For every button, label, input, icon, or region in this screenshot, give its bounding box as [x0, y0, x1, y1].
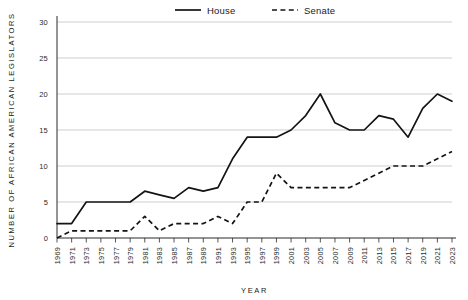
chart-container: 051015202530 196919711973197519771979198… — [0, 0, 468, 300]
y-tick-label: 15 — [39, 126, 48, 135]
y-tick-label: 20 — [39, 90, 48, 99]
y-tick-label: 30 — [39, 18, 48, 27]
legend-label-house: House — [207, 5, 235, 16]
legend-label-senate: Senate — [304, 5, 335, 16]
x-tick-label: 1981 — [141, 247, 150, 264]
x-tick-label: 1995 — [243, 247, 252, 264]
x-tick-label: 1991 — [214, 247, 223, 264]
x-tick-label: 1979 — [126, 247, 135, 264]
x-tick-label: 2013 — [375, 247, 384, 264]
x-tick-label: 1989 — [199, 247, 208, 264]
series-line-senate — [57, 152, 452, 238]
x-tick-label: 2007 — [331, 247, 340, 264]
x-tick-label: 2003 — [302, 247, 311, 264]
x-tick-label: 2001 — [287, 247, 296, 264]
x-tick-label: 2021 — [433, 247, 442, 264]
x-tick-label: 2023 — [448, 247, 457, 264]
x-tick-label: 2017 — [404, 247, 413, 264]
x-tick-label: 1987 — [185, 247, 194, 264]
x-tick-label: 2011 — [360, 247, 369, 264]
x-tick-label: 1985 — [170, 247, 179, 264]
y-tick-label: 5 — [44, 198, 48, 207]
x-tick-label: 1983 — [155, 247, 164, 264]
x-tick-label: 1975 — [97, 247, 106, 264]
x-tick-label: 2015 — [389, 247, 398, 264]
legend-group: HouseSenate — [175, 5, 335, 16]
x-tick-label: 1993 — [229, 247, 238, 264]
x-tick-label: 2005 — [316, 247, 325, 264]
y-axis-group: 051015202530 — [39, 16, 57, 243]
y-tick-label: 0 — [44, 234, 48, 243]
x-tick-label: 1977 — [112, 247, 121, 264]
x-tick-label: 2009 — [346, 247, 355, 264]
x-tick-label: 1973 — [82, 247, 91, 264]
x-axis-group: 1969197119731975197719791981198319851987… — [53, 238, 457, 264]
y-axis-title: NUMBER OF AFRICAN AMERICAN LEGISLATORS — [7, 12, 16, 247]
y-tick-label: 25 — [39, 54, 48, 63]
y-tick-label: 10 — [39, 162, 48, 171]
x-tick-label: 1999 — [272, 247, 281, 264]
series-line-house — [57, 94, 452, 224]
gridlines-group — [57, 22, 452, 202]
x-tick-label: 1997 — [258, 247, 267, 264]
x-tick-label: 2019 — [419, 247, 428, 264]
x-axis-title: YEAR — [241, 286, 268, 295]
x-tick-label: 1971 — [68, 247, 77, 264]
x-tick-label: 1969 — [53, 247, 62, 264]
legislators-line-chart: 051015202530 196919711973197519771979198… — [0, 0, 468, 300]
